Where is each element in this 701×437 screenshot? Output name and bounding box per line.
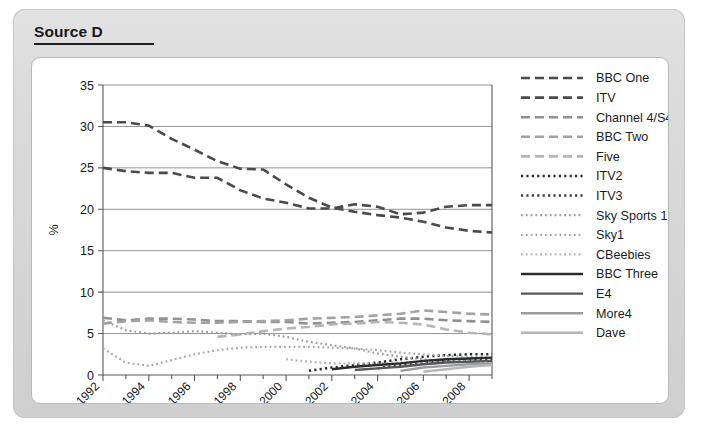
y-tick-label: 25 [80, 161, 94, 175]
legend-label: ITV [596, 91, 616, 105]
chart-legend: BBC OneITVChannel 4/S4CBBC TwoFiveITV2IT… [521, 71, 668, 340]
x-tick-label: 1992 [73, 379, 102, 403]
legend-label: ITV3 [596, 189, 623, 203]
chart-card: 05101520253035 1992199419961998200020022… [31, 57, 669, 404]
x-axis-tick-labels: 199219941996199820002002200420062008 [73, 379, 468, 403]
series-line [103, 310, 492, 323]
x-tick-label: 2008 [439, 379, 468, 403]
legend-label: ITV2 [596, 169, 623, 183]
x-tick-label: 2000 [256, 379, 285, 403]
legend-label: Dave [596, 326, 625, 340]
y-axis-title: % [47, 224, 61, 235]
series-line [103, 122, 492, 232]
title-underline [34, 43, 154, 45]
y-tick-label: 15 [80, 244, 94, 258]
source-panel: Source D 05101520253035 1992199419961998… [13, 9, 685, 418]
legend-label: More4 [596, 307, 632, 321]
y-tick-label: 5 [87, 327, 94, 341]
y-tick-label: 10 [80, 286, 94, 300]
x-tick-label: 1996 [165, 379, 194, 403]
y-tick-label: 30 [80, 120, 94, 134]
line-chart: 05101520253035 1992199419961998200020022… [32, 58, 668, 403]
legend-label: BBC Two [596, 130, 648, 144]
legend-label: Channel 4/S4C [596, 111, 668, 125]
axes [98, 85, 492, 381]
y-tick-label: 20 [80, 203, 94, 217]
y-axis-label: % [47, 224, 61, 235]
legend-label: Five [596, 150, 620, 164]
panel-title-block: Source D [34, 23, 154, 45]
x-tick-label: 1994 [119, 379, 148, 403]
y-tick-label: 35 [80, 79, 94, 93]
y-axis-tick-labels: 05101520253035 [80, 79, 94, 383]
legend-label: Sky Sports 1 [596, 209, 667, 223]
legend-label: CBeebies [596, 248, 651, 262]
x-tick-label: 2004 [348, 379, 377, 403]
series-line [217, 322, 492, 337]
legend-label: BBC Three [596, 267, 658, 281]
chart-series [103, 122, 492, 371]
x-tick-label: 1998 [211, 379, 240, 403]
x-tick-label: 2002 [302, 379, 331, 403]
legend-label: BBC One [596, 71, 649, 85]
page-title: Source D [34, 23, 154, 41]
legend-label: Sky1 [596, 228, 624, 242]
x-tick-label: 2006 [394, 379, 423, 403]
legend-label: E4 [596, 287, 611, 301]
